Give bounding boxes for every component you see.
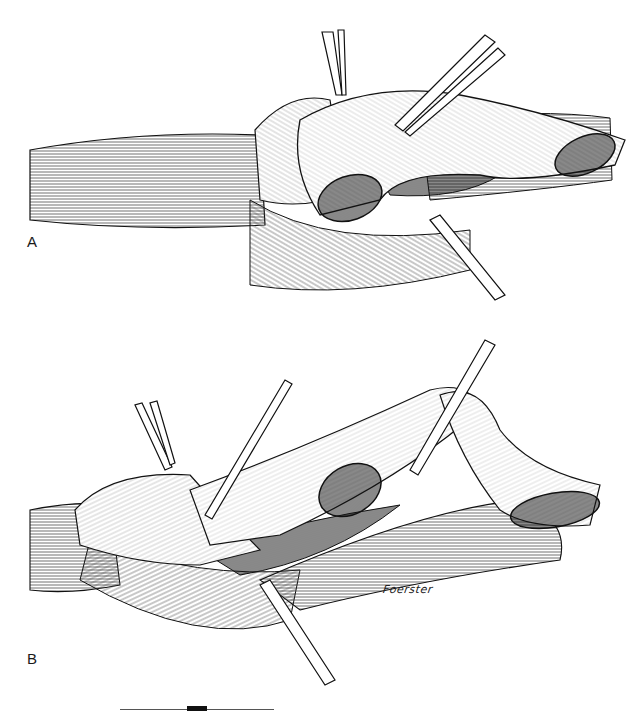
scale-bar-block (187, 706, 207, 711)
scale-bar (120, 706, 274, 712)
panel-label-b: B (27, 650, 37, 667)
panel-b (0, 320, 641, 690)
panel-a-illustration (0, 0, 641, 310)
panel-label-a: A (27, 233, 37, 250)
artist-signature: Foerster (382, 583, 434, 596)
panel-b-illustration (0, 320, 641, 690)
panel-a (0, 0, 641, 310)
